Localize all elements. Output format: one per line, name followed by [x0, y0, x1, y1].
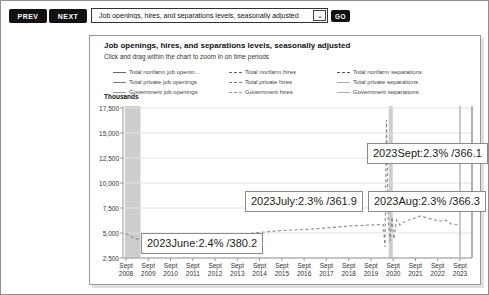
data-point-tooltip: 2023July:2.3% /361.9	[245, 191, 363, 212]
data-point-tooltip: 2023June:2.4% /380.2	[141, 233, 263, 254]
data-point-tooltip: 2023Aug:2.3% /366.3	[368, 191, 486, 212]
jolts-chart-page: PREV NEXT Job openings, hires, and separ…	[0, 0, 489, 295]
data-point-tooltip: 2023Sept:2.3% /366.1	[367, 143, 488, 164]
recession-band	[125, 106, 141, 258]
